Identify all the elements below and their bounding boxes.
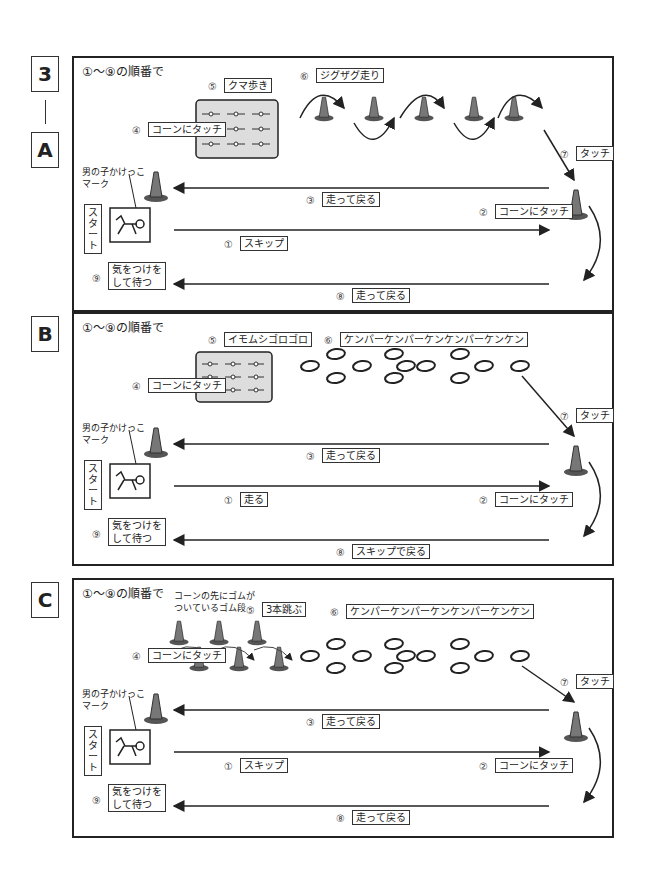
panel-label-b: B	[31, 316, 59, 352]
cone-icon	[414, 97, 433, 121]
step7-label: タッチ	[576, 674, 614, 689]
footprint-icon	[384, 662, 403, 674]
footprint-icon	[474, 650, 493, 662]
cone-icon	[314, 97, 333, 121]
step5-label: イモムシゴロゴロ	[224, 332, 312, 347]
order-instruction: ①～⑨の順番で	[82, 66, 164, 78]
cone-icon	[269, 647, 288, 671]
step4-label: コーンにタッチ	[148, 378, 226, 393]
footprint-icon	[384, 372, 403, 384]
step9-label: 気をつけを して待つ	[108, 784, 166, 812]
step8-label: 走って戻る	[352, 810, 410, 825]
footprint-icon	[396, 650, 415, 662]
step3-label: 走って戻る	[322, 448, 380, 463]
order-instruction: ①～⑨の順番で	[82, 322, 164, 334]
panel-a: ①～⑨の順番で④コーンにタッチ男の子かけっこ マークスタート③走って戻る①スキッ…	[72, 56, 614, 312]
step2-label: コーンにタッチ	[495, 758, 573, 773]
dash-divider	[45, 100, 46, 124]
step8-label: 走って戻る	[352, 288, 410, 303]
footprint-icon	[300, 650, 319, 662]
footprint-icon	[416, 650, 435, 662]
step5-label: クマ歩き	[224, 78, 272, 93]
footprint-icon	[352, 650, 371, 662]
step9-label: 気をつけを して待つ	[108, 518, 166, 546]
footprint-icon	[384, 638, 403, 650]
step3-label: 走って戻る	[322, 714, 380, 729]
start-label: スタート	[84, 726, 102, 776]
step7-label: タッチ	[576, 146, 614, 161]
order-instruction: ①～⑨の順番で	[82, 588, 164, 600]
step4-label: コーンにタッチ	[148, 648, 226, 663]
cone-icon	[209, 621, 228, 645]
rubber-note: コーンの先にゴムが ついているゴム段	[174, 590, 255, 614]
footprint-icon	[450, 662, 469, 674]
cone-icon	[564, 446, 588, 476]
footprint-icon	[510, 360, 529, 372]
mark-caption: 男の子かけっこ マーク	[82, 166, 145, 190]
cone-icon	[169, 621, 188, 645]
step4-label: コーンにタッチ	[148, 122, 226, 137]
footprint-icon	[416, 360, 435, 372]
cone-icon	[464, 97, 483, 121]
section-number: 3	[31, 56, 59, 92]
step5-label: 3本跳ぶ	[262, 602, 306, 617]
footprint-icon	[396, 360, 415, 372]
panel-c: ①～⑨の順番で④コーンにタッチ男の子かけっこ マークスタート③走って戻る①スキッ…	[72, 578, 614, 838]
start-label: スタート	[84, 460, 102, 510]
step3-label: 走って戻る	[322, 192, 380, 207]
panel-b: ①～⑨の順番で④コーンにタッチ男の子かけっこ マークスタート③走って戻る①走る②…	[72, 312, 614, 566]
footprint-icon	[300, 360, 319, 372]
step6-label: ケンパーケンパーケンケンパーケンケン	[346, 604, 534, 619]
footprint-icon	[326, 662, 345, 674]
step1-label: スキップ	[240, 758, 288, 773]
step2-label: コーンにタッチ	[495, 492, 573, 507]
cone-icon	[144, 172, 168, 202]
footprint-icon	[326, 638, 345, 650]
step8-label: スキップで戻る	[352, 544, 430, 559]
step6-label: ケンパーケンパーケンケンパーケンケン	[340, 332, 528, 347]
panel-label-a: A	[31, 132, 59, 168]
mark-caption: 男の子かけっこ マーク	[82, 422, 145, 446]
cone-icon	[144, 428, 168, 458]
mark-caption: 男の子かけっこ マーク	[82, 688, 145, 712]
step1-label: 走る	[240, 492, 268, 507]
step1-label: スキップ	[240, 236, 288, 251]
footprint-icon	[326, 372, 345, 384]
footprint-icon	[450, 372, 469, 384]
footprint-icon	[474, 360, 493, 372]
footprint-icon	[450, 638, 469, 650]
panel-label-c: C	[31, 582, 59, 618]
footprint-icon	[326, 348, 345, 360]
cone-icon	[229, 647, 248, 671]
start-label: スタート	[84, 204, 102, 254]
cone-icon	[247, 621, 266, 645]
step2-label: コーンにタッチ	[495, 204, 573, 219]
step9-label: 気をつけを して待つ	[108, 262, 166, 290]
footprint-icon	[450, 348, 469, 360]
cone-icon	[144, 694, 168, 724]
cone-icon	[364, 97, 383, 121]
footprint-icon	[352, 360, 371, 372]
cone-icon	[564, 712, 588, 742]
step7-label: タッチ	[576, 408, 614, 423]
footprint-icon	[510, 650, 529, 662]
step6-label: ジグザグ走り	[316, 68, 384, 83]
footprint-icon	[384, 348, 403, 360]
